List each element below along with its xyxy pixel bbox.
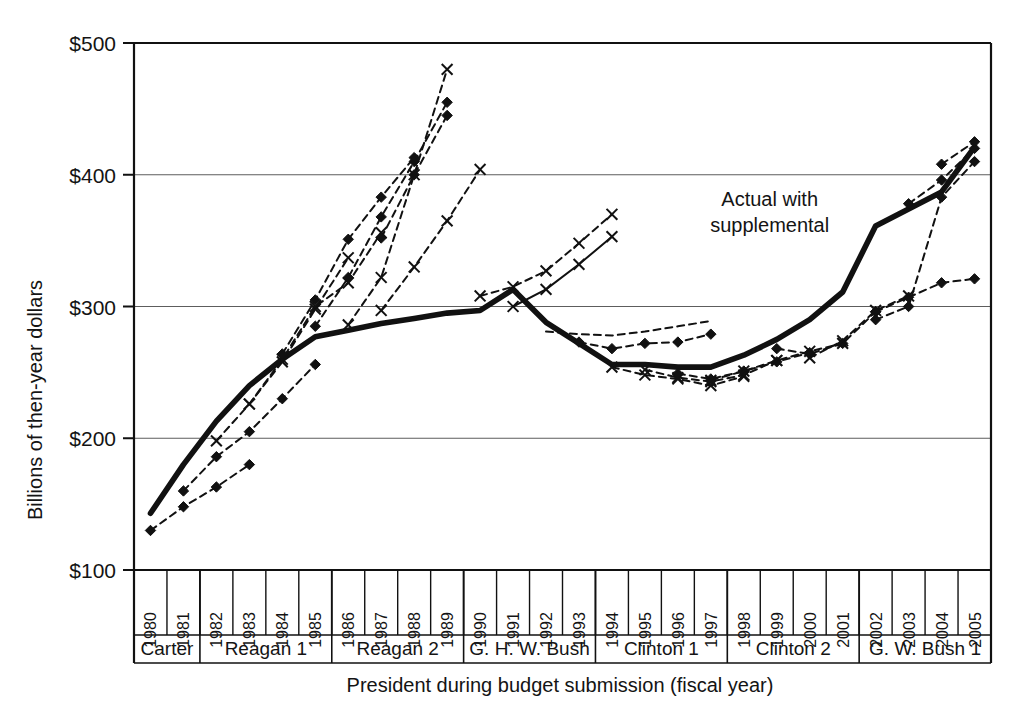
y-tick-label-500: $500: [69, 32, 116, 55]
year-label-1997: 1997: [703, 612, 720, 648]
president-label-g-h-w-bush: G. H. W. Bush: [469, 638, 589, 659]
year-label-1998: 1998: [736, 612, 753, 648]
y-axis-title: Billions of then-year dollars: [24, 280, 46, 520]
year-label-1985: 1985: [307, 612, 324, 648]
budget-projection-chart: $100$200$300$400$500 1980198119821983198…: [0, 0, 1024, 713]
annotation-line-1: Actual with: [721, 188, 818, 210]
y-tick-label-100: $100: [69, 559, 116, 582]
y-tick-label-200: $200: [69, 427, 116, 450]
x-axis-title: President during budget submission (fisc…: [347, 674, 774, 696]
year-label-1994: 1994: [604, 612, 621, 648]
year-label-1989: 1989: [439, 612, 456, 648]
year-label-1982: 1982: [208, 612, 225, 648]
year-label-1986: 1986: [340, 612, 357, 648]
y-tick-label-400: $400: [69, 164, 116, 187]
year-label-2001: 2001: [835, 612, 852, 648]
president-label-reagan-2: Reagan 2: [356, 638, 438, 659]
president-label-clinton-2: Clinton 2: [756, 638, 831, 659]
president-label-clinton-1: Clinton 1: [624, 638, 699, 659]
chart-canvas: $100$200$300$400$500 1980198119821983198…: [0, 0, 1024, 713]
annotation-line-2: supplemental: [710, 214, 829, 236]
chart-background: [0, 0, 1024, 713]
president-label-g-w-bush-1: G. W. Bush 1: [869, 638, 981, 659]
y-tick-label-300: $300: [69, 296, 116, 319]
president-label-reagan-1: Reagan 1: [225, 638, 307, 659]
president-label-carter: Carter: [141, 638, 194, 659]
